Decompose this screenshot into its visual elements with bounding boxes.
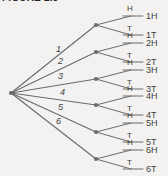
- stage1-edge-group: [11, 25, 96, 159]
- stage1-label-2: 2: [57, 56, 63, 66]
- stage1-label-6: 6: [56, 116, 61, 126]
- outcome-label-1H: 1H: [146, 11, 158, 21]
- stage1-label-4: 4: [60, 87, 65, 97]
- stage1-label-5: 5: [58, 102, 64, 112]
- stage2-edge-2T: [96, 52, 131, 62]
- stage2-edge-2H: [96, 43, 131, 52]
- stage2-edge-4T: [96, 105, 131, 115]
- stage2-edge-5T: [96, 132, 131, 142]
- stage2-branch-label-11: T: [127, 158, 132, 167]
- start-node: [9, 91, 13, 95]
- outcome-label-group: 1H1T2H2T3H3T4H4T5H5T6H6T: [146, 11, 158, 174]
- node-group: [9, 23, 98, 161]
- stage2-branch-label-4: H: [127, 58, 133, 67]
- stage2-branch-label-10: H: [127, 138, 133, 147]
- stage1-edge-3: [11, 79, 96, 93]
- stage1-edge-2: [11, 52, 96, 93]
- die-node-5: [94, 130, 98, 134]
- die-node-2: [94, 50, 98, 54]
- die-node-6: [94, 157, 98, 161]
- stage1-label-1: 1: [56, 44, 61, 54]
- die-node-4: [94, 103, 98, 107]
- stage2-edge-4H: [96, 96, 131, 105]
- outcome-tick-group: [123, 16, 143, 169]
- stage2-branch-label-2: H: [127, 31, 133, 40]
- stage2-edge-1H: [96, 16, 131, 25]
- outcome-label-3H: 3H: [146, 65, 158, 75]
- stage2-edge-group: [96, 16, 131, 169]
- stage2-edge-1T: [96, 25, 131, 35]
- stage1-edge-1: [11, 25, 96, 93]
- outcome-label-6H: 6H: [146, 145, 158, 155]
- probability-tree-diagram: 123456 HTHTHTHTHTHT 1H1T2H2T3H3T4H4T5H5T…: [0, 0, 168, 176]
- die-node-3: [94, 77, 98, 81]
- stage2-branch-label-8: H: [127, 111, 133, 120]
- stage2-branch-label-0: H: [127, 4, 133, 13]
- figure-container: FIGURE 2.5 123456 HTHTHTHTHTHT 1H1T2H2T3…: [0, 0, 168, 176]
- outcome-label-6T: 6T: [146, 164, 157, 174]
- stage2-edge-6H: [96, 150, 131, 159]
- stage2-edge-6T: [96, 159, 131, 169]
- die-node-1: [94, 23, 98, 27]
- stage2-edge-5H: [96, 123, 131, 132]
- stage2-label-group: HTHTHTHTHTHT: [127, 4, 133, 167]
- stage2-branch-label-6: H: [127, 84, 133, 93]
- stage2-edge-3H: [96, 70, 131, 79]
- outcome-label-5H: 5H: [146, 118, 158, 128]
- stage1-label-3: 3: [58, 71, 63, 81]
- outcome-label-4H: 4H: [146, 91, 158, 101]
- outcome-label-2H: 2H: [146, 38, 158, 48]
- stage2-edge-3T: [96, 79, 131, 89]
